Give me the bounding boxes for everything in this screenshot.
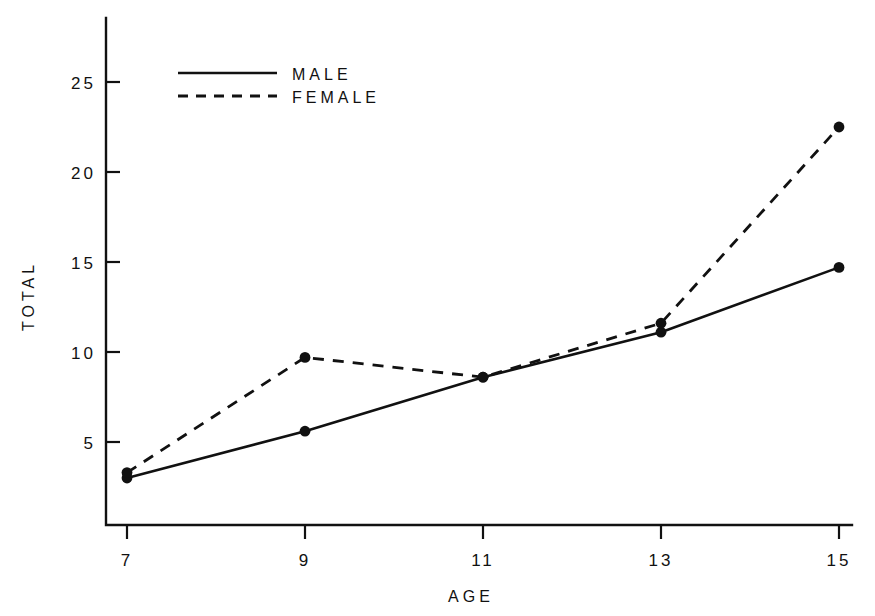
x-tick-label-15: 15 — [827, 551, 852, 570]
x-tick-label-13: 13 — [649, 551, 674, 570]
legend-label-male: MALE — [292, 66, 352, 83]
y-tick-label-5: 5 — [84, 434, 96, 453]
x-tick-label-9: 9 — [299, 551, 311, 570]
y-tick-label-20: 20 — [71, 164, 96, 183]
axis-frame — [106, 18, 852, 525]
series-line-female — [127, 127, 839, 473]
y-axis-title: TOTAL — [20, 261, 37, 331]
x-tick-label-7: 7 — [121, 551, 133, 570]
x-axis-title: AGE — [448, 588, 494, 605]
data-point-female-age-11 — [478, 372, 489, 383]
x-axis-ticks — [127, 525, 839, 539]
x-axis-tick-labels: 7 9 11 13 15 — [121, 551, 852, 570]
data-point-male-age-15 — [834, 262, 845, 273]
data-point-female-age-13 — [656, 318, 667, 329]
data-point-female-age-7 — [122, 467, 133, 478]
data-point-male-age-9 — [300, 426, 311, 437]
data-point-female-age-9 — [300, 352, 311, 363]
legend-label-female: FEMALE — [292, 89, 380, 106]
y-tick-label-15: 15 — [71, 254, 96, 273]
chart-canvas: 25 20 15 10 5 TOTAL 7 9 11 13 15 AGE — [0, 0, 875, 616]
y-axis-ticks — [106, 82, 120, 442]
series-layer — [122, 122, 845, 484]
line-chart: 25 20 15 10 5 TOTAL 7 9 11 13 15 AGE — [0, 0, 875, 616]
data-point-female-age-15 — [834, 122, 845, 133]
y-axis-tick-labels: 25 20 15 10 5 — [71, 74, 96, 453]
x-tick-label-11: 11 — [471, 551, 495, 570]
legend: MALE FEMALE — [178, 66, 380, 106]
y-tick-label-25: 25 — [71, 74, 96, 93]
y-tick-label-10: 10 — [71, 344, 96, 363]
